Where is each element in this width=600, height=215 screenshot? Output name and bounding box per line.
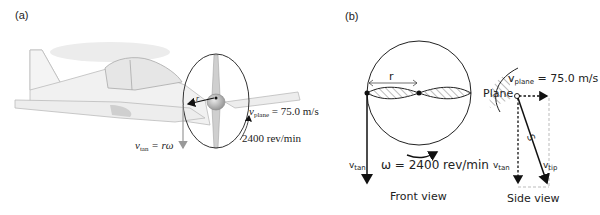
v-plane-subscript: plane xyxy=(254,111,269,119)
omega-label: ω = 2400 rev/min xyxy=(381,158,489,172)
v-plane-value-side: = 75.0 m/s xyxy=(537,72,598,85)
panel-b-label: (b) xyxy=(345,10,358,22)
v-tan-subscript-side: tan xyxy=(498,164,509,172)
v-tan-label-a: vtan = rω xyxy=(135,139,173,153)
side-view-caption: Side view xyxy=(507,192,560,205)
v-tan-label-side: vtan xyxy=(493,160,510,172)
radius-label-a: r xyxy=(196,94,199,103)
v-plane-label-a: vplane = 75.0 m/s xyxy=(249,105,319,119)
v-tan-label-front: vtan xyxy=(349,160,366,172)
v-tan-subscript-front: tan xyxy=(354,164,365,172)
plane-label: Plane xyxy=(483,87,513,100)
v-plane-subscript-side: plane xyxy=(515,78,534,86)
rpm-label-a: 2400 rev/min xyxy=(242,132,301,144)
v-tan-subscript: tan xyxy=(140,145,149,153)
v-tan-value: = rω xyxy=(151,139,173,151)
v-plane-label-side: vplane = 75.0 m/s xyxy=(508,72,598,86)
v-tip-label: vtip xyxy=(543,160,557,172)
panel-a-label: (a) xyxy=(15,9,28,21)
front-view-caption: Front view xyxy=(390,190,447,203)
v-plane-value: = 75.0 m/s xyxy=(272,105,319,117)
v-tip-subscript: tip xyxy=(548,164,557,172)
radius-label-b: r xyxy=(389,70,394,83)
